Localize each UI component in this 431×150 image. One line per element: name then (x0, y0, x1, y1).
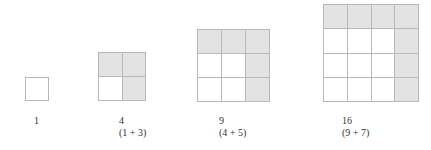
square-sum: (1 + 3) (119, 127, 146, 139)
square-3x3 (197, 29, 270, 102)
grid-cell (324, 78, 348, 102)
grid-cell (348, 78, 372, 102)
grid-cell (198, 54, 222, 78)
grid-cell (198, 78, 222, 102)
grid-cell (372, 29, 396, 53)
label-square-3: 9 (4 + 5) (219, 115, 246, 139)
grid-cell (324, 5, 348, 29)
square-1x1 (25, 77, 49, 101)
square-sum: (9 + 7) (342, 127, 369, 139)
grid-cell (222, 78, 246, 102)
square-4x4 (323, 4, 419, 102)
grid-cell (26, 78, 49, 101)
grid-cell (222, 30, 246, 54)
square-value: 1 (34, 115, 39, 127)
square-value: 16 (342, 115, 369, 127)
grid-cell (395, 5, 419, 29)
label-square-2: 4 (1 + 3) (119, 115, 146, 139)
square-sum: (4 + 5) (219, 127, 246, 139)
grid-cell (348, 54, 372, 78)
grid-cell (246, 78, 270, 102)
label-square-4: 16 (9 + 7) (342, 115, 369, 139)
grid-cell (99, 53, 123, 77)
grid-cell (348, 5, 372, 29)
grid-cell (372, 54, 396, 78)
grid-cell (395, 29, 419, 53)
grid-cell (372, 78, 396, 102)
square-2x2 (98, 52, 146, 101)
grid-cell (395, 54, 419, 78)
square-value: 9 (219, 115, 246, 127)
grid-cell (395, 78, 419, 102)
grid-cell (198, 30, 222, 54)
grid-cell (123, 53, 147, 77)
grid-cell (324, 29, 348, 53)
square-value: 4 (119, 115, 146, 127)
grid-cell (123, 77, 147, 101)
grid-cell (372, 5, 396, 29)
grid-cell (222, 54, 246, 78)
grid-cell (246, 30, 270, 54)
grid-cell (246, 54, 270, 78)
grid-cell (348, 29, 372, 53)
grid-cell (324, 54, 348, 78)
label-square-1: 1 (34, 115, 39, 127)
grid-cell (99, 77, 123, 101)
